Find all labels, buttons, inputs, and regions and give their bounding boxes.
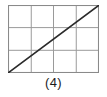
- figure-caption: (4): [0, 74, 107, 92]
- figure-container: (4): [0, 0, 107, 97]
- grid-diagram: [8, 5, 99, 73]
- grid-svg: [8, 5, 99, 73]
